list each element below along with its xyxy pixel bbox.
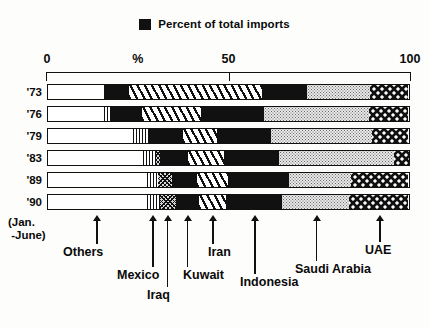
- bar-segment-kuwait: [149, 129, 183, 143]
- bar-row: '89: [0, 170, 429, 192]
- bar-segment-mexico: [147, 173, 158, 187]
- bar-row-label: '83: [26, 152, 42, 164]
- bar-row: '73: [0, 82, 429, 104]
- bar-segment-saudi-arabia: [282, 195, 349, 209]
- bar-segment-indonesia: [226, 195, 282, 209]
- chart-legend: Percent of total imports: [0, 18, 429, 30]
- callout-arrow-icon: [149, 215, 157, 221]
- bar-segment-uae: [349, 195, 408, 209]
- bar-segment-indonesia: [224, 151, 278, 165]
- callout-label-others: Others: [63, 245, 103, 259]
- stacked-bar: [47, 128, 410, 144]
- bar-segment-iran: [129, 85, 262, 99]
- callout-arrow-icon: [251, 215, 259, 221]
- callout-leader-line: [379, 221, 380, 242]
- bar-segment-kuwait: [104, 85, 129, 99]
- bar-segment-mexico: [104, 107, 111, 121]
- bar-segment-saudi-arabia: [264, 107, 368, 121]
- bar-segment-indonesia: [201, 107, 264, 121]
- bar-segment-iran: [188, 151, 224, 165]
- callout-leader-line: [212, 221, 213, 244]
- bar-segment-others: [48, 129, 133, 143]
- bar-segment-kuwait: [111, 107, 142, 121]
- bar-segment-mexico: [147, 195, 160, 209]
- bar-segment-iran: [197, 173, 228, 187]
- callout-label-uae: UAE: [365, 243, 391, 257]
- callout-label-saudi-arabia: Saudi Arabia: [295, 262, 371, 276]
- chart-figure: Percent of total imports 0%50100 '73'76'…: [0, 0, 429, 328]
- bar-segment-others: [48, 173, 147, 187]
- bar-segment-others: [48, 107, 104, 121]
- bar-segment-uae: [351, 173, 409, 187]
- bar-segment-iran: [199, 195, 226, 209]
- bar-segment-kuwait: [172, 173, 197, 187]
- bar-row-label: '90: [26, 196, 42, 208]
- callout-arrow-icon: [93, 215, 101, 221]
- stacked-bar: [47, 106, 410, 122]
- bar-row: '76: [0, 104, 429, 126]
- stacked-bar: [47, 84, 410, 100]
- bar-segment-indonesia: [217, 129, 271, 143]
- bar-segment-uae: [369, 107, 409, 121]
- bar-row: '90: [0, 192, 429, 214]
- stacked-bar: [47, 150, 410, 166]
- bar-segment-uae: [370, 85, 408, 99]
- x-axis-tick-100: 100: [400, 52, 421, 66]
- callout-label-indonesia: Indonesia: [240, 275, 298, 289]
- callout-leader-line: [152, 221, 153, 267]
- bar-segment-indonesia: [262, 85, 307, 99]
- x-axis-tick-labels: 0%50100: [0, 52, 429, 68]
- bar-segment-indonesia: [228, 173, 289, 187]
- x-axis-mid-tick: [229, 72, 231, 81]
- bar-segment-others: [48, 151, 143, 165]
- callout-leader-line: [254, 221, 255, 274]
- black-square-icon: [139, 19, 151, 30]
- bar-rows: '73'76'79'83'89'90: [0, 82, 429, 214]
- bar-row-label: '79: [26, 130, 42, 142]
- bar-segment-iran: [183, 129, 217, 143]
- bar-segment-kuwait: [176, 195, 199, 209]
- bar-row-label: '76: [26, 108, 42, 120]
- bar-segment-saudi-arabia: [271, 129, 372, 143]
- callout-arrow-icon: [164, 215, 172, 221]
- bar-segment-saudi-arabia: [289, 173, 350, 187]
- bar-row-label: '73: [26, 86, 42, 98]
- bar-segment-others: [48, 195, 147, 209]
- period-note: (Jan. -June): [8, 216, 46, 241]
- stacked-bar: [47, 172, 410, 188]
- x-axis-tick-percent: %: [132, 52, 143, 66]
- callout-leader-line: [187, 221, 188, 267]
- bar-segment-others: [48, 85, 104, 99]
- callout-label-mexico: Mexico: [117, 268, 159, 282]
- x-axis-tick-50: 50: [222, 52, 236, 66]
- callout-leader-line: [96, 221, 97, 244]
- stacked-bar: [47, 194, 410, 210]
- callout-label-iraq: Iraq: [147, 288, 170, 302]
- bar-segment-iraq: [160, 195, 176, 209]
- callout-label-iran: Iran: [208, 245, 231, 259]
- bar-segment-saudi-arabia: [279, 151, 394, 165]
- bar-segment-mexico: [133, 129, 149, 143]
- callout-leader-line: [316, 221, 317, 261]
- bar-segment-iraq: [158, 173, 172, 187]
- legend-label: Percent of total imports: [158, 18, 289, 30]
- x-axis-tick-0: 0: [44, 52, 51, 66]
- callout-arrow-icon: [313, 215, 321, 221]
- bar-row-label: '89: [26, 174, 42, 186]
- callout-arrow-icon: [376, 215, 384, 221]
- bar-segment-saudi-arabia: [307, 85, 370, 99]
- callout-label-kuwait: Kuwait: [183, 268, 224, 282]
- bar-row: '79: [0, 126, 429, 148]
- bar-row: '83: [0, 148, 429, 170]
- bar-segment-uae: [372, 129, 408, 143]
- bar-segment-kuwait: [160, 151, 189, 165]
- bar-segment-mexico: [143, 151, 156, 165]
- callout-leader-line: [167, 221, 168, 287]
- callout-arrow-icon: [184, 215, 192, 221]
- callout-arrow-icon: [209, 215, 217, 221]
- bar-segment-iran: [142, 107, 201, 121]
- bar-segment-uae: [394, 151, 410, 165]
